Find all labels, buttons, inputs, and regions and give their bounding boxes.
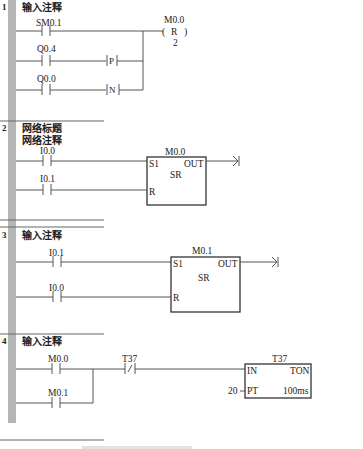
network-title: 输入注释 bbox=[22, 1, 63, 13]
network-number: 4 bbox=[2, 336, 7, 346]
contact-label: I0.0 bbox=[49, 283, 64, 293]
network-3[interactable]: 3 输入注释 I0.1 I0.0 M0.1 S1 OUT SR R bbox=[2, 229, 278, 312]
timer-address: T37 bbox=[272, 354, 288, 364]
svg-text:S1: S1 bbox=[149, 159, 159, 169]
network-1[interactable]: 1 输入注释 SM0.1 M0.0 ( R ) 2 Q0.4 P Q0.0 N bbox=[2, 1, 187, 95]
svg-text:P: P bbox=[109, 56, 114, 66]
svg-text:R: R bbox=[173, 293, 180, 303]
coil-count: 2 bbox=[173, 38, 178, 48]
svg-text:SR: SR bbox=[170, 170, 182, 180]
contact-label: M0.1 bbox=[48, 388, 69, 398]
coil-address: M0.0 bbox=[164, 15, 185, 25]
contact-label: I0.1 bbox=[40, 174, 55, 184]
svg-text:): ) bbox=[184, 26, 187, 38]
contact-label: T37 bbox=[122, 354, 138, 364]
block-address: M0.1 bbox=[192, 246, 213, 256]
contact-label: M0.0 bbox=[48, 354, 69, 364]
network-4[interactable]: 4 输入注释 M0.0 M0.1 T37 T37 IN TON PT 100ms… bbox=[2, 335, 311, 408]
svg-text:100ms: 100ms bbox=[283, 386, 309, 396]
contact-label: I0.1 bbox=[49, 248, 64, 258]
ladder-diagram: 1 输入注释 SM0.1 M0.0 ( R ) 2 Q0.4 P Q0.0 N bbox=[0, 0, 363, 449]
network-number: 1 bbox=[2, 2, 7, 12]
contact-label: I0.0 bbox=[40, 146, 55, 156]
block-address: M0.0 bbox=[165, 147, 186, 157]
left-power-rail bbox=[8, 0, 16, 423]
svg-text:IN: IN bbox=[247, 366, 257, 376]
contact-label: Q0.0 bbox=[37, 74, 56, 84]
network-title: 网络标题 bbox=[22, 122, 63, 134]
network-title: 输入注释 bbox=[22, 335, 63, 347]
network-number: 3 bbox=[2, 230, 7, 240]
network-2[interactable]: 2 网络标题 网络注释 I0.0 I0.1 M0.0 S1 OUT SR R bbox=[2, 122, 239, 205]
svg-text:OUT: OUT bbox=[218, 259, 238, 269]
timer-preset: 20 bbox=[228, 386, 238, 396]
svg-text:S1: S1 bbox=[173, 259, 183, 269]
svg-text:OUT: OUT bbox=[184, 159, 204, 169]
svg-text:(: ( bbox=[162, 26, 166, 38]
network-comment: 网络注释 bbox=[22, 134, 63, 146]
svg-text:R: R bbox=[149, 187, 156, 197]
svg-text:SR: SR bbox=[198, 273, 210, 283]
coil-op: R bbox=[171, 27, 178, 37]
svg-text:PT: PT bbox=[247, 386, 258, 396]
network-title: 输入注释 bbox=[22, 229, 63, 241]
network-number: 2 bbox=[2, 123, 7, 133]
svg-text:TON: TON bbox=[290, 366, 309, 376]
contact-label: SM0.1 bbox=[36, 18, 62, 28]
contact-label: Q0.4 bbox=[37, 44, 56, 54]
svg-text:N: N bbox=[109, 85, 116, 95]
